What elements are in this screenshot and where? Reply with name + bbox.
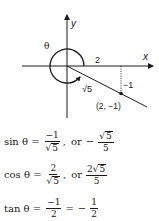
sine-rationalized-fraction: √5 5: [98, 131, 113, 153]
cosine-equation: cos θ = 2 √5 , or 2√5 5: [4, 164, 109, 186]
tangent-equation: tan θ = −1 2 = − 1 2: [4, 198, 100, 219]
tangent-simplified-fraction: 1 2: [90, 198, 98, 219]
tangent-numerator: −1: [46, 198, 61, 209]
tangent-simplified-denominator: 2: [91, 209, 97, 219]
comma: ,: [63, 137, 66, 147]
tangent-lhs: tan θ =: [4, 204, 41, 214]
adjacent-label: 2: [95, 55, 100, 65]
equals-sign: =: [65, 204, 73, 214]
sqrt-arg: 5: [52, 176, 60, 186]
sine-rationalized-numerator: √5: [98, 131, 113, 143]
unit-angle-diagram: x y θ 2 −1 √5 (2, −1): [0, 0, 159, 120]
cosine-rationalized-fraction: 2√5 5: [86, 164, 107, 186]
sine-rationalized-denominator: 5: [103, 143, 109, 153]
point-label: (2, −1): [96, 101, 121, 111]
cosine-denominator: √5: [47, 175, 60, 186]
cosine-numerator: 2: [49, 164, 57, 175]
sine-equation: sin θ = −1 √5 , or − √5 5: [4, 131, 116, 153]
or-word: or: [71, 170, 82, 180]
x-axis-label: x: [142, 51, 149, 62]
sine-numerator: −1: [45, 131, 60, 142]
y-axis-label: y: [70, 18, 77, 29]
comma: ,: [63, 170, 66, 180]
tangent-fraction: −1 2: [46, 198, 61, 219]
sine-fraction: −1 √5: [45, 131, 60, 153]
point-marker: [119, 92, 123, 96]
opposite-label: −1: [123, 80, 133, 90]
angle-label: θ: [44, 41, 49, 51]
sqrt-arg: 5: [51, 143, 59, 153]
tangent-denominator: 2: [51, 209, 57, 219]
hypotenuse-label: √5: [82, 84, 92, 94]
sqrt-arg: 5: [98, 164, 106, 174]
minus-sign: −: [86, 137, 94, 147]
tangent-simplified-numerator: 1: [90, 198, 98, 209]
sine-denominator: √5: [45, 142, 58, 153]
cosine-lhs: cos θ =: [4, 170, 42, 180]
sine-lhs: sin θ =: [4, 137, 40, 147]
sqrt-arg: 5: [105, 131, 113, 141]
minus-sign: −: [78, 204, 86, 214]
cosine-rationalized-numerator: 2√5: [86, 164, 107, 176]
cosine-rationalized-denominator: 5: [94, 176, 100, 186]
cosine-fraction: 2 √5: [47, 164, 60, 186]
or-word: or: [71, 137, 82, 147]
